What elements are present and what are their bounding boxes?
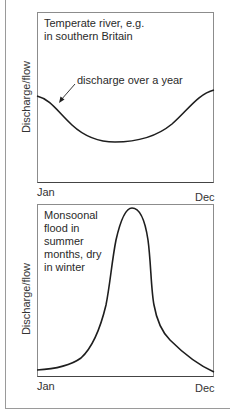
temperate-discharge-curve bbox=[37, 90, 214, 142]
monsoonal-discharge-curve bbox=[37, 208, 214, 372]
curves-layer bbox=[0, 0, 230, 419]
arrow-icon bbox=[59, 84, 75, 103]
